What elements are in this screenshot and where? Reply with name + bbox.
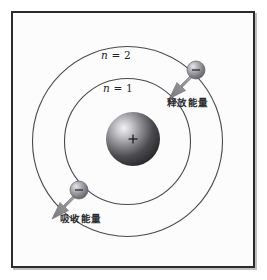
absorb-energy-label: 吸收能量	[60, 211, 101, 225]
shell-label-n2-equals: =	[108, 49, 124, 61]
shell-label-n2: n = 2	[101, 49, 131, 61]
shell-label-n1: n = 1	[103, 82, 133, 94]
atom-diagram-canvas	[0, 0, 267, 280]
shell-label-n1-value: 1	[126, 82, 133, 94]
electron-inner	[70, 181, 88, 199]
shell-label-n2-variable: n	[101, 49, 108, 61]
electron-outer	[187, 61, 205, 79]
release-energy-label: 释放能量	[167, 95, 208, 109]
shell-label-n2-value: 2	[124, 49, 131, 61]
atom-diagram-figure: n = 2 n = 1 释放能量 吸收能量	[0, 0, 267, 280]
shell-label-n1-equals: =	[110, 82, 126, 94]
shell-label-n1-variable: n	[103, 82, 110, 94]
